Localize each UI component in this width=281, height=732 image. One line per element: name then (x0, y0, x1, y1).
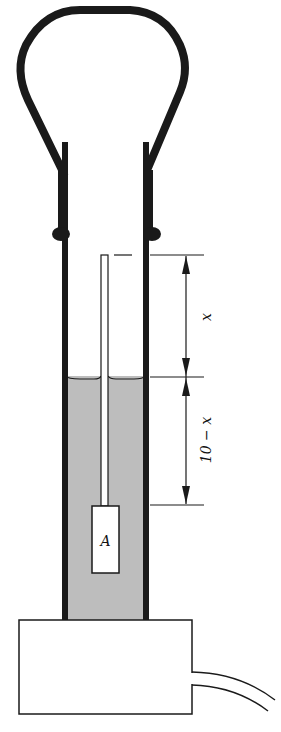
arrow-down-icon (182, 358, 190, 376)
bulb-join-left (58, 170, 68, 232)
base-unit (19, 620, 192, 714)
arrow-up-icon (182, 378, 190, 396)
knob-left (52, 227, 70, 241)
knob-right (143, 227, 161, 241)
arrow-up-icon (182, 256, 190, 274)
cable (192, 672, 275, 711)
block-a-label: A (98, 533, 110, 549)
rod (101, 255, 108, 506)
label-10-minus-x: 10 − x (198, 417, 214, 463)
bulb (20, 10, 185, 174)
bulb-join-right (143, 170, 153, 232)
label-x: x (198, 313, 214, 321)
cable-gap (190, 673, 194, 684)
apparatus-diagram: A x 10 − x (0, 0, 281, 732)
arrow-down-icon (182, 486, 190, 504)
